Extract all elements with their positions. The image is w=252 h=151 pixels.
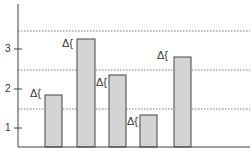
- delta-annotation: Δ{: [30, 87, 41, 99]
- delta-annotation: Δ{: [62, 37, 73, 49]
- bar-5: [174, 57, 191, 147]
- y-tick-label: 2: [5, 83, 11, 94]
- bar-chart: Δ{ Δ{ Δ{ Δ{ Δ{ 3 2 1: [0, 0, 252, 151]
- delta-annotation: Δ{: [127, 115, 138, 127]
- delta-annotation: Δ{: [157, 49, 168, 61]
- y-tick-label: 3: [5, 43, 11, 54]
- bar-2: [77, 39, 95, 147]
- bar-3: [109, 75, 126, 147]
- bar-1: [45, 95, 62, 147]
- bar-4: [140, 115, 157, 147]
- delta-annotation: Δ{: [96, 76, 107, 88]
- y-tick-label: 1: [5, 122, 11, 133]
